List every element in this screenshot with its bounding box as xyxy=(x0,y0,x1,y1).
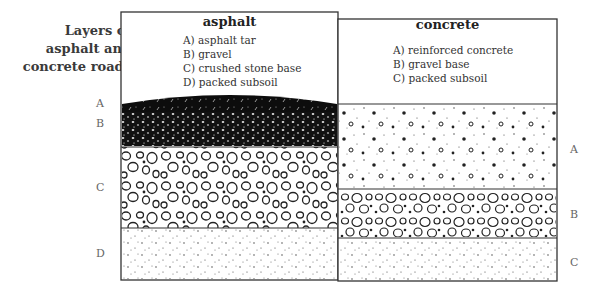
concrete-layer-a-reinforced xyxy=(339,105,556,188)
concrete-legend: A) reinforced concrete B) gravel base C)… xyxy=(393,43,513,85)
asphalt-layer-d-subsoil xyxy=(122,229,337,279)
asphalt-legend-item: C) crushed stone base xyxy=(183,61,301,75)
asphalt-label-b: B xyxy=(96,117,104,130)
concrete-heading: concrete xyxy=(338,17,557,32)
concrete-legend-item: A) reinforced concrete xyxy=(393,43,513,57)
concrete-layer-b-gravel-base xyxy=(339,190,556,237)
asphalt-legend-item: D) packed subsoil xyxy=(183,75,301,89)
asphalt-legend-item: B) gravel xyxy=(183,47,301,61)
asphalt-heading: asphalt xyxy=(121,14,338,29)
asphalt-label-c: C xyxy=(96,181,104,194)
concrete-legend-item: B) gravel base xyxy=(393,57,513,71)
concrete-layer-c-subsoil xyxy=(339,239,556,280)
concrete-legend-item: C) packed subsoil xyxy=(393,71,513,85)
asphalt-layer-c-crushed-stone xyxy=(122,147,337,228)
concrete-label-c: C xyxy=(570,256,578,269)
concrete-label-a: A xyxy=(570,143,578,156)
concrete-label-b: B xyxy=(570,208,578,221)
asphalt-legend: A) asphalt tar B) gravel C) crushed ston… xyxy=(183,33,301,89)
asphalt-label-a: A xyxy=(96,97,104,110)
asphalt-legend-item: A) asphalt tar xyxy=(183,33,301,47)
asphalt-layer-b-gravel xyxy=(122,112,337,146)
asphalt-label-d: D xyxy=(96,247,105,260)
